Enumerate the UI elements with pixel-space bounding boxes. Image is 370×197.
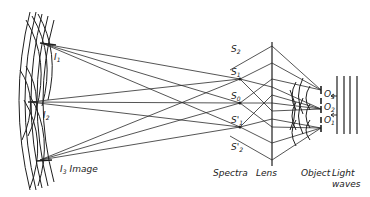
optics-diagram: I1 I2 I3Image S2 S1 S0 S'1 S'2 O3 O2 O1 … — [0, 0, 370, 197]
caption-object: Object — [301, 168, 331, 178]
caption-waves: waves — [332, 179, 361, 189]
label-I1: I1 — [54, 52, 60, 63]
diagram-canvas: I1 I2 I3Image S2 S1 S0 S'1 S'2 O3 O2 O1 … — [0, 0, 370, 197]
label-I2: I2 — [43, 110, 50, 121]
label-S2: S2 — [231, 44, 241, 55]
label-S1: S1 — [231, 67, 241, 78]
rays-lens-to-object — [272, 46, 321, 160]
label-O3: O3 — [324, 89, 335, 100]
label-S1-prime: S'1 — [231, 115, 243, 126]
light-waves — [337, 76, 357, 134]
caption-lens: Lens — [256, 168, 277, 178]
label-I3-image: I3Image — [60, 164, 98, 175]
label-S0: S0 — [231, 91, 241, 102]
caption-spectra: Spectra — [213, 168, 248, 178]
object-wavefronts — [290, 78, 310, 146]
caption-light: Light — [332, 168, 355, 178]
rays-image-to-spectra — [30, 44, 240, 160]
label-S2-prime: S'2 — [231, 142, 243, 153]
label-O2: O2 — [324, 102, 335, 113]
